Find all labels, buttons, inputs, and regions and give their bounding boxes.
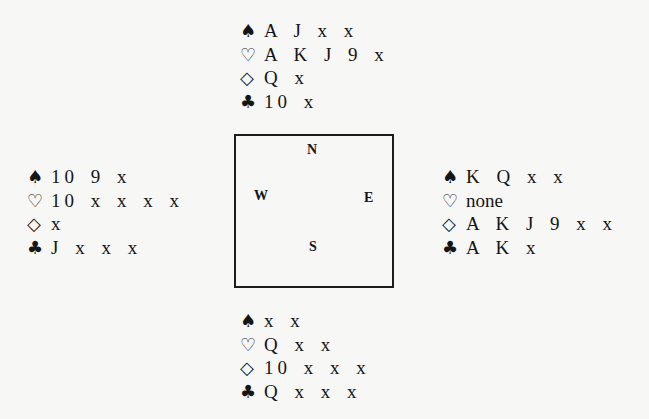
- south-clubs-row: ♣ Q x x x: [240, 380, 370, 404]
- north-clubs-row: ♣ 10 x: [240, 90, 388, 114]
- south-diamonds-cards: 10 x x x: [264, 356, 370, 380]
- diamond-icon: ◇: [27, 212, 51, 236]
- east-spades-row: ♠ K Q x x: [442, 165, 616, 189]
- north-spades-row: ♠ A J x x: [240, 19, 388, 43]
- club-icon: ♣: [240, 90, 264, 114]
- north-diamonds-row: ◇ Q x: [240, 66, 388, 90]
- spade-icon: ♠: [240, 19, 264, 43]
- east-diamonds-row: ◇ A K J 9 x x: [442, 212, 616, 236]
- heart-icon: ♡: [27, 189, 51, 213]
- east-hand: ♠ K Q x x ♡ none ◇ A K J 9 x x ♣ A K x: [442, 165, 616, 259]
- heart-icon: ♡: [442, 189, 466, 213]
- south-spades-cards: x x: [264, 309, 304, 333]
- club-icon: ♣: [240, 380, 264, 404]
- north-diamonds-cards: Q x: [264, 66, 308, 90]
- south-diamonds-row: ◇ 10 x x x: [240, 356, 370, 380]
- west-spades-row: ♠ 10 9 x: [27, 165, 183, 189]
- seat-east-label: E: [364, 190, 373, 206]
- west-diamonds-row: ◇ x: [27, 212, 183, 236]
- south-hand: ♠ x x ♡ Q x x ◇ 10 x x x ♣ Q x x x: [240, 309, 370, 403]
- club-icon: ♣: [27, 236, 51, 260]
- west-diamonds-cards: x: [51, 212, 65, 236]
- spade-icon: ♠: [27, 165, 51, 189]
- west-clubs-cards: J x x x: [51, 236, 141, 260]
- west-clubs-row: ♣ J x x x: [27, 236, 183, 260]
- east-diamonds-cards: A K J 9 x x: [466, 212, 616, 236]
- north-hearts-row: ♡ A K J 9 x: [240, 43, 388, 67]
- west-hearts-cards: 10 x x x x: [51, 189, 183, 213]
- east-clubs-row: ♣ A K x: [442, 236, 616, 260]
- diamond-icon: ◇: [240, 66, 264, 90]
- west-hand: ♠ 10 9 x ♡ 10 x x x x ◇ x ♣ J x x x: [27, 165, 183, 259]
- north-hand: ♠ A J x x ♡ A K J 9 x ◇ Q x ♣ 10 x: [240, 19, 388, 113]
- west-spades-cards: 10 9 x: [51, 165, 131, 189]
- heart-icon: ♡: [240, 43, 264, 67]
- south-clubs-cards: Q x x x: [264, 380, 360, 404]
- west-hearts-row: ♡ 10 x x x x: [27, 189, 183, 213]
- seat-south-label: S: [309, 239, 317, 255]
- south-hearts-row: ♡ Q x x: [240, 333, 370, 357]
- seat-west-label: W: [254, 188, 268, 204]
- east-hearts-row: ♡ none: [442, 189, 616, 213]
- north-spades-cards: A J x x: [264, 19, 357, 43]
- north-clubs-cards: 10 x: [264, 90, 317, 114]
- heart-icon: ♡: [240, 333, 264, 357]
- south-hearts-cards: Q x x: [264, 333, 334, 357]
- east-spades-cards: K Q x x: [466, 165, 567, 189]
- south-spades-row: ♠ x x: [240, 309, 370, 333]
- spade-icon: ♠: [240, 309, 264, 333]
- seat-north-label: N: [307, 142, 317, 158]
- east-clubs-cards: A K x: [466, 236, 539, 260]
- diamond-icon: ◇: [240, 356, 264, 380]
- club-icon: ♣: [442, 236, 466, 260]
- diamond-icon: ◇: [442, 212, 466, 236]
- north-hearts-cards: A K J 9 x: [264, 43, 388, 67]
- spade-icon: ♠: [442, 165, 466, 189]
- east-hearts-cards: none: [466, 189, 503, 213]
- bridge-table: N W E S: [234, 134, 394, 288]
